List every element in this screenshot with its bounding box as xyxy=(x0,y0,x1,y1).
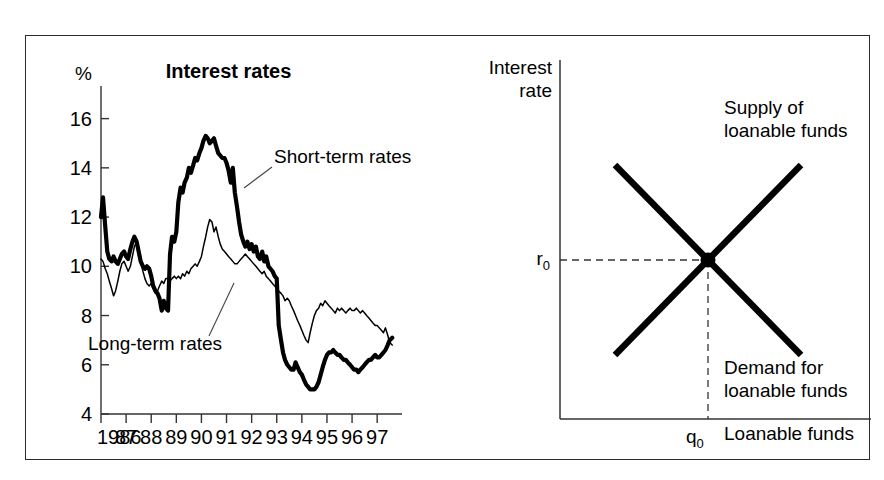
x-tick-label: 94 xyxy=(291,426,313,448)
y-tick-label: 16 xyxy=(70,108,92,130)
interest-rates-chart-panel: 46810121416%19868788899091929394959697In… xyxy=(26,36,456,459)
x-tick-label: 88 xyxy=(140,426,162,448)
supply-label-line1: Supply of xyxy=(724,97,804,118)
x-tick-label: 95 xyxy=(316,426,338,448)
equilibrium-rate-label: r0 xyxy=(536,248,550,273)
long-term-leader-line xyxy=(209,283,234,336)
x-tick-label: 90 xyxy=(190,426,212,448)
equilibrium-point-dot xyxy=(701,253,716,268)
y-tick-label: 12 xyxy=(70,206,92,228)
diagram-y-axis-title-line2: rate xyxy=(519,80,552,101)
y-tick-label: 14 xyxy=(70,157,92,179)
x-tick-label: 87 xyxy=(115,426,137,448)
y-tick-label: 10 xyxy=(70,255,92,277)
demand-label-line2: loanable funds xyxy=(724,380,848,401)
x-tick-label: 93 xyxy=(266,426,288,448)
demand-label-line1: Demand for xyxy=(724,357,824,378)
supply-label-line2: loanable funds xyxy=(724,120,848,141)
y-axis-unit-label: % xyxy=(75,63,92,84)
x-tick-label: 97 xyxy=(366,426,388,448)
long-term-rates-label: Long-term rates xyxy=(88,333,222,354)
figure-frame: 46810121416%19868788899091929394959697In… xyxy=(25,35,870,460)
equilibrium-quantity-label: q0 xyxy=(686,426,704,451)
chart-title: Interest rates xyxy=(166,60,292,82)
x-tick-label: 96 xyxy=(341,426,363,448)
y-tick-label: 4 xyxy=(81,403,92,425)
long-term-rates-line xyxy=(101,220,392,346)
x-tick-label: 89 xyxy=(165,426,187,448)
y-tick-label: 8 xyxy=(81,305,92,327)
short-term-leader-line xyxy=(244,167,272,188)
x-tick-label: 91 xyxy=(215,426,237,448)
diagram-y-axis-title-line1: Interest xyxy=(489,57,553,78)
figure-root: 46810121416%19868788899091929394959697In… xyxy=(0,0,884,480)
x-tick-label: 92 xyxy=(241,426,263,448)
interest-rates-chart: 46810121416%19868788899091929394959697In… xyxy=(26,36,456,459)
y-tick-label: 6 xyxy=(81,354,92,376)
loanable-funds-diagram-panel: InterestrateLoanable fundsr0q0Supply ofl… xyxy=(456,36,871,459)
loanable-funds-diagram: InterestrateLoanable fundsr0q0Supply ofl… xyxy=(456,36,871,459)
diagram-x-axis-title: Loanable funds xyxy=(724,423,854,444)
short-term-rates-label: Short-term rates xyxy=(274,146,411,167)
